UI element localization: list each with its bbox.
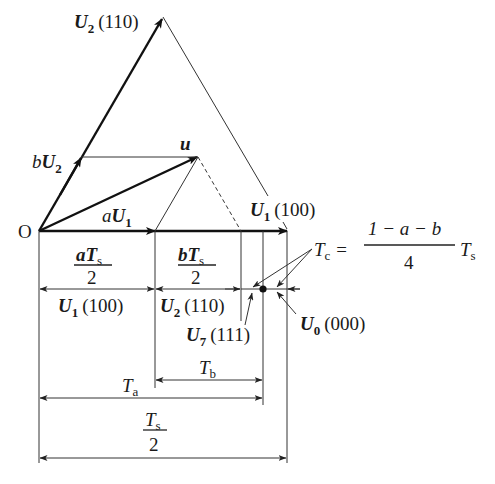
svg-text:Tc=: Tc= — [314, 239, 347, 263]
label-state-u7-111: U7(111) — [186, 324, 250, 349]
svg-text:2: 2 — [149, 434, 159, 455]
label-state-u2-110: U2(110) — [160, 295, 225, 320]
origin-label: O — [18, 221, 32, 242]
fraction-b-ts-over-2: bTs 2 — [178, 244, 216, 288]
svg-text:Ts: Ts — [460, 239, 476, 263]
construction-dashed-line — [198, 157, 241, 231]
svg-text:1 − a − b: 1 − a − b — [368, 218, 441, 239]
label-au1: aU1 — [102, 205, 132, 230]
construction-line-au1-to-u — [155, 157, 198, 231]
dimension-ta: Ta — [40, 375, 262, 399]
timing-row-sequence — [40, 285, 300, 292]
label-state-u0-000: U0(000) — [300, 313, 365, 338]
tc-formula: Tc= 1 − a − b 4 Ts — [314, 218, 476, 273]
svg-text:2: 2 — [191, 267, 201, 288]
dimension-tb: Tb — [156, 357, 262, 381]
label-u1-100: U1(100) — [250, 199, 315, 224]
label-bu2: bU2 — [32, 151, 62, 176]
label-u2-110: U2(110) — [74, 11, 139, 36]
vector-bu2-arrow — [60, 158, 81, 195]
svpwm-vector-diagram: O U2(110) bU2 u aU1 U1(100) aTs 2 bTs — [0, 0, 495, 484]
pointer-u7 — [245, 293, 252, 325]
svg-text:2: 2 — [87, 267, 97, 288]
svg-text:Ta: Ta — [122, 375, 139, 399]
hexagon-edge-line-lower — [283, 222, 287, 229]
svg-text:Tb: Tb — [199, 357, 216, 381]
svg-text:4: 4 — [404, 252, 414, 273]
label-state-u1-100: U1(100) — [58, 295, 123, 320]
vector-u2-arrow — [39, 19, 162, 231]
fraction-a-ts-over-2: aTs 2 — [74, 244, 112, 288]
label-u: u — [180, 133, 191, 154]
dimension-ts-over-2: Ts 2 — [40, 409, 286, 458]
timing-extension-lines — [39, 231, 287, 463]
u0-midpoint-dot — [259, 285, 266, 292]
hexagon-edge-line — [163, 17, 268, 196]
